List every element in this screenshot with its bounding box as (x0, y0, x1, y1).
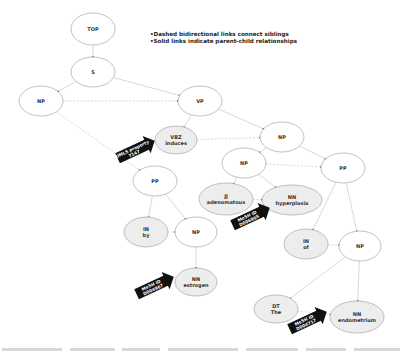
parse-tree-diagram: TOPSNPVPVBZinducesNPPPNPPPJJadenomatousN… (0, 0, 404, 353)
node-tag: VP (196, 98, 204, 104)
edge-pp2-np5 (346, 183, 357, 231)
node-word: endometrium (338, 317, 376, 323)
node-tag: PP (339, 165, 347, 171)
node-tag: NP (37, 98, 45, 104)
legend-solid-line: •Solid links indicate parent-child relat… (150, 38, 297, 45)
cropped-caption-strip (0, 345, 404, 353)
node-word: estrogen (183, 282, 209, 289)
node-tag: NP (240, 160, 248, 166)
node-np5: NP (339, 231, 381, 261)
node-nn1: NNhyperplasia (262, 185, 322, 215)
node-np2: NP (260, 122, 304, 152)
edge-vp-np2 (218, 109, 263, 129)
node-word: by (143, 232, 151, 239)
node-tag: S (91, 69, 95, 75)
edge-np3-pp2 (266, 164, 321, 167)
edge-s-vp (113, 78, 179, 96)
nodes-layer: TOPSNPVPVBZinducesNPPPNPPPJJadenomatousN… (19, 13, 384, 333)
node-word: adenomatous (207, 199, 245, 205)
node-np1: NP (19, 86, 63, 116)
edge-pp1-in1 (149, 196, 153, 217)
edge-np5-nn3 (358, 261, 360, 301)
edge-vbz-np2 (197, 138, 260, 140)
callout-mesh-estrogen: MeSH IDD004967 (133, 268, 178, 303)
node-nn3: NNendometrium (330, 301, 384, 333)
edge-np3-nn1 (259, 174, 276, 187)
node-word: hyperplasia (276, 200, 309, 207)
node-word: induces (165, 140, 187, 146)
node-np4: NP (175, 217, 217, 247)
node-pp2: PP (321, 153, 365, 183)
node-tag: NP (356, 243, 364, 249)
edge-np1-pp1 (56, 112, 139, 170)
node-tag: TOP (87, 26, 99, 32)
edge-np2-pp2 (300, 146, 326, 159)
node-vp: VP (178, 86, 222, 116)
callout-umls: UMLS propertyT147 (113, 132, 159, 167)
edge-np3-jj (234, 177, 237, 183)
node-tag: NP (278, 134, 286, 140)
node-word: of (303, 244, 309, 250)
legend: •Dashed bidirectional links connect sibl… (150, 31, 297, 45)
node-in1: INby (124, 217, 168, 247)
node-vbz: VBZinduces (155, 126, 197, 154)
node-nn2: NNestrogen (175, 268, 217, 296)
node-pp1: PP (133, 166, 177, 196)
edge-np5-dt (290, 257, 345, 298)
node-tag: NP (192, 229, 200, 235)
node-jj: JJadenomatous (199, 183, 253, 215)
edge-np2-np3 (260, 148, 267, 153)
edge-s-np1 (58, 81, 76, 91)
edge-pp1-np4 (166, 194, 186, 219)
node-dt: DTThe (254, 295, 298, 323)
legend-dashed-line: •Dashed bidirectional links connect sibl… (150, 31, 297, 38)
node-tag: PP (151, 178, 159, 184)
node-top: TOP (71, 13, 115, 45)
node-s: S (71, 57, 115, 87)
node-np3: NP (222, 148, 266, 178)
edge-vp-vbz (184, 115, 192, 127)
node-word: The (271, 309, 282, 315)
node-in2: INof (284, 229, 328, 259)
